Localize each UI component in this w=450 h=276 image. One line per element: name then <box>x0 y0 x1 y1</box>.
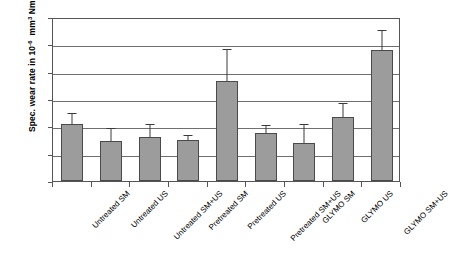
bar <box>255 133 277 181</box>
error-bar-cap <box>106 128 115 129</box>
bar <box>139 137 161 181</box>
y-axis-title-unit-nm: Nm <box>27 0 37 14</box>
bar <box>61 124 83 181</box>
x-axis-tick-label: GLYMO SM+US <box>402 189 450 237</box>
x-axis-tick-mark <box>129 182 130 187</box>
x-axis-tick-mark <box>207 182 208 187</box>
bar <box>100 141 122 181</box>
x-axis-tick-mark <box>400 182 401 187</box>
y-axis-tick-mark <box>48 182 52 183</box>
x-axis-tick-label: Untreated US <box>129 189 170 230</box>
error-bar-cap <box>68 113 77 114</box>
plot-area <box>52 18 400 182</box>
y-axis-title-exp1: -6 <box>27 40 33 46</box>
error-bar <box>265 126 266 133</box>
x-axis-tick-mark <box>284 182 285 187</box>
error-bar-cap <box>184 135 193 136</box>
y-axis-tick-mark <box>48 155 52 156</box>
bar <box>216 81 238 181</box>
error-bar-cap <box>222 49 231 50</box>
error-bar <box>342 104 343 117</box>
y-axis-tick-mark <box>48 73 52 74</box>
error-bar <box>304 125 305 142</box>
y-axis-tick-mark <box>48 18 52 19</box>
x-axis-tick-label: Pretreated US <box>245 189 287 231</box>
y-axis-tick-mark <box>48 45 52 46</box>
bar <box>332 117 354 181</box>
x-axis-tick-mark <box>323 182 324 187</box>
x-axis-tick-mark <box>168 182 169 187</box>
bar-slot <box>130 19 169 181</box>
bar <box>371 50 393 181</box>
error-bar-cap <box>145 124 154 125</box>
x-axis-tick-mark <box>52 182 53 187</box>
bar-slot <box>362 19 401 181</box>
error-bar <box>188 136 189 140</box>
y-axis-title-unit-mm: mm <box>27 20 37 35</box>
error-bar <box>226 50 227 81</box>
bar-slot <box>246 19 285 181</box>
bar-slot <box>92 19 131 181</box>
error-bar-cap <box>261 125 270 126</box>
y-axis-tick-mark <box>48 100 52 101</box>
bar-slot <box>285 19 324 181</box>
x-axis-tick-mark <box>361 182 362 187</box>
y-axis-title-exp2: 3 <box>27 17 33 20</box>
bar <box>177 140 199 181</box>
error-bar <box>381 31 382 50</box>
bar-slot <box>208 19 247 181</box>
error-bar-cap <box>377 30 386 31</box>
error-bar-cap <box>338 103 347 104</box>
y-axis-title-prefix: Spec. wear rate in 10 <box>27 46 37 132</box>
x-axis-tick-mark <box>91 182 92 187</box>
error-bar <box>72 114 73 123</box>
error-bar <box>110 129 111 141</box>
bar-slot <box>169 19 208 181</box>
bar-series <box>53 19 399 181</box>
x-axis-tick-label: Untreated SM <box>90 189 131 230</box>
x-axis-tick-label: GLYMO US <box>359 189 395 225</box>
bar-slot <box>53 19 92 181</box>
x-axis-tick-mark <box>245 182 246 187</box>
error-bar-cap <box>300 124 309 125</box>
bar <box>293 143 315 181</box>
y-axis-tick-mark <box>48 127 52 128</box>
y-axis-title: Spec. wear rate in 10-6 mm3 Nm-1 <box>27 0 38 153</box>
error-bar <box>149 125 150 137</box>
bar-slot <box>324 19 363 181</box>
